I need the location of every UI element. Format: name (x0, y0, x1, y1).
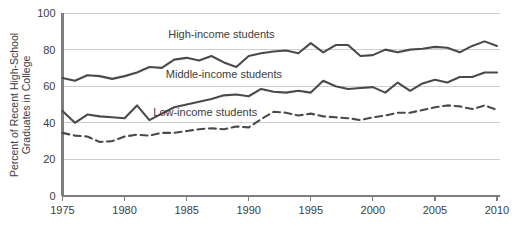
y-tick-label-80: 80 (43, 44, 55, 56)
series-paths-group (63, 41, 498, 142)
x-tick-label-1975: 1975 (50, 204, 74, 216)
x-tick-label-1995: 1995 (299, 204, 323, 216)
chart-container: 020406080100 197519801985199019952000200… (0, 0, 528, 239)
x-tick-label-2000: 2000 (361, 204, 385, 216)
series-label-high-income-students: High-income students (168, 28, 275, 40)
x-tick-label-1980: 1980 (112, 204, 136, 216)
line-chart: 020406080100 197519801985199019952000200… (0, 0, 528, 239)
y-tick-label-0: 0 (49, 190, 55, 202)
series-line-low-income-students (63, 105, 498, 142)
y-axis-title-line2: Graduates in College (20, 56, 32, 155)
y-axis-title-line1: Percent of Recent High-School (8, 33, 20, 177)
y-tick-label-40: 40 (43, 117, 55, 129)
y-axis-tick-labels: 020406080100 (37, 7, 55, 202)
y-tick-label-20: 20 (43, 153, 55, 165)
series-inline-labels: High-income studentsMiddle-income studen… (153, 28, 282, 118)
x-tick-label-2010: 2010 (485, 204, 509, 216)
y-tick-label-60: 60 (43, 80, 55, 92)
x-tick-label-1985: 1985 (174, 204, 198, 216)
y-tick-label-100: 100 (37, 7, 55, 19)
gridlines-group (63, 13, 501, 159)
x-tick-label-2005: 2005 (423, 204, 447, 216)
x-axis-tick-labels: 19751980198519901995200020052010 (50, 204, 509, 216)
series-label-low-income-students: Low-income students (153, 106, 257, 118)
series-label-middle-income-students: Middle-income students (166, 68, 283, 80)
x-tick-label-1990: 1990 (236, 204, 260, 216)
